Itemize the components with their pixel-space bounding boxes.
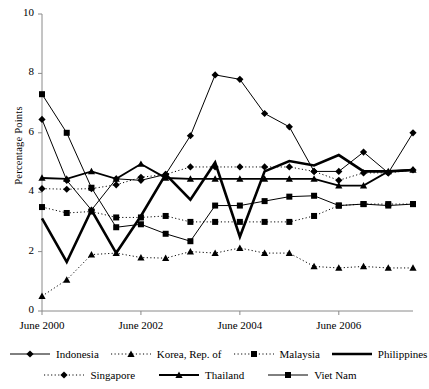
marker-triangle bbox=[127, 350, 134, 356]
marker-square bbox=[39, 91, 45, 97]
legend-label: Korea, Rep. of bbox=[157, 348, 222, 360]
marker-diamond bbox=[310, 168, 317, 175]
axes bbox=[38, 14, 413, 315]
marker-diamond bbox=[38, 185, 45, 192]
marker-square bbox=[286, 194, 292, 200]
legend-item-viet-nam[interactable]: Viet Nam bbox=[266, 368, 356, 382]
marker-square bbox=[410, 201, 416, 207]
marker-diamond bbox=[61, 371, 68, 378]
marker-square bbox=[262, 219, 268, 225]
legend-row-1: IndonesiaKorea, Rep. ofMalaysiaPhilippin… bbox=[0, 344, 429, 364]
marker-square bbox=[285, 372, 291, 378]
legend-glyph bbox=[8, 347, 52, 361]
legend-item-malaysia[interactable]: Malaysia bbox=[232, 347, 320, 361]
series-line bbox=[42, 75, 413, 210]
marker-triangle bbox=[187, 248, 194, 254]
marker-square bbox=[88, 185, 94, 191]
legend-glyph bbox=[42, 368, 86, 382]
marker-square bbox=[138, 221, 144, 227]
chart-legend: IndonesiaKorea, Rep. ofMalaysiaPhilippin… bbox=[0, 344, 421, 389]
series-line bbox=[42, 248, 413, 296]
marker-square bbox=[64, 130, 70, 136]
marker-diamond bbox=[409, 129, 416, 136]
marker-diamond bbox=[212, 71, 219, 78]
marker-triangle bbox=[310, 263, 317, 269]
marker-triangle bbox=[88, 168, 95, 174]
marker-triangle bbox=[286, 249, 293, 255]
legend-label: Singapore bbox=[90, 369, 135, 381]
marker-square bbox=[385, 203, 391, 209]
marker-triangle bbox=[360, 263, 367, 269]
marker-triangle bbox=[137, 160, 144, 166]
legend-item-thailand[interactable]: Thailand bbox=[157, 368, 244, 382]
marker-square bbox=[187, 219, 193, 225]
marker-square bbox=[336, 203, 342, 209]
legend-glyph bbox=[109, 347, 153, 361]
marker-diamond bbox=[63, 186, 70, 193]
marker-triangle bbox=[38, 293, 45, 299]
marker-triangle bbox=[236, 244, 243, 250]
marker-square bbox=[39, 204, 45, 210]
series-line bbox=[42, 155, 413, 262]
marker-square bbox=[212, 219, 218, 225]
legend-glyph bbox=[330, 347, 374, 361]
series-philippines bbox=[42, 155, 413, 262]
legend-item-korea-rep-of[interactable]: Korea, Rep. of bbox=[109, 347, 222, 361]
marker-diamond bbox=[236, 76, 243, 83]
marker-square bbox=[251, 351, 257, 357]
marker-square bbox=[311, 213, 317, 219]
legend-row-2: SingaporeThailandViet Nam bbox=[0, 365, 421, 385]
marker-triangle bbox=[63, 276, 70, 282]
legend-item-philippines[interactable]: Philippines bbox=[330, 347, 428, 361]
legend-label: Malaysia bbox=[280, 348, 320, 360]
marker-square bbox=[163, 231, 169, 237]
marker-square bbox=[311, 193, 317, 199]
marker-square bbox=[237, 219, 243, 225]
marker-square bbox=[237, 203, 243, 209]
marker-square bbox=[64, 210, 70, 216]
legend-glyph bbox=[232, 347, 276, 361]
marker-diamond bbox=[286, 163, 293, 170]
legend-item-indonesia[interactable]: Indonesia bbox=[8, 347, 99, 361]
marker-square bbox=[113, 224, 119, 230]
marker-square bbox=[262, 198, 268, 204]
legend-label: Philippines bbox=[378, 348, 428, 360]
marker-square bbox=[187, 238, 193, 244]
marker-square bbox=[212, 203, 218, 209]
marker-square bbox=[286, 219, 292, 225]
marker-diamond bbox=[261, 110, 268, 117]
marker-square bbox=[163, 213, 169, 219]
series-korea-rep-of bbox=[38, 244, 416, 299]
legend-label: Thailand bbox=[205, 369, 244, 381]
marker-diamond bbox=[38, 116, 45, 123]
legend-item-singapore[interactable]: Singapore bbox=[42, 368, 135, 382]
marker-diamond bbox=[236, 163, 243, 170]
marker-diamond bbox=[286, 123, 293, 130]
legend-glyph bbox=[157, 368, 201, 382]
marker-diamond bbox=[187, 163, 194, 170]
marker-triangle bbox=[409, 264, 416, 270]
marker-square bbox=[113, 214, 119, 220]
legend-glyph bbox=[266, 368, 310, 382]
legend-label: Viet Nam bbox=[314, 369, 356, 381]
legend-label: Indonesia bbox=[56, 348, 99, 360]
marker-diamond bbox=[187, 132, 194, 139]
series-indonesia bbox=[38, 71, 416, 213]
marker-square bbox=[361, 201, 367, 207]
marker-diamond bbox=[26, 350, 33, 357]
